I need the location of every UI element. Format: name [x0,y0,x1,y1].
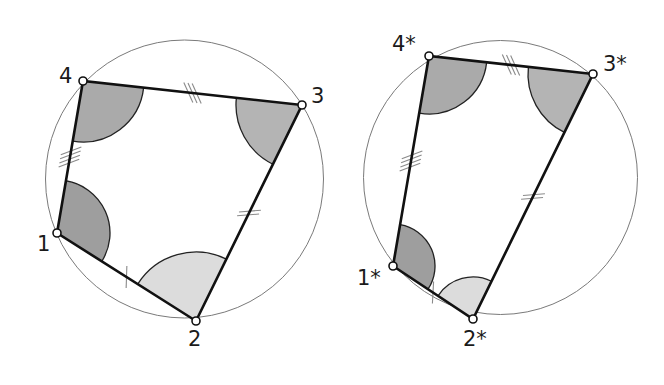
angle-sector-3 [528,67,593,132]
figure-original-quadrilateral [46,40,324,325]
vertex-point-3* [589,70,597,78]
vertex-label: 4* [392,34,416,55]
vertex-label: 4 [59,66,72,87]
angle-sector-4 [73,81,144,142]
vertex-label: 3* [603,54,627,75]
angle-sector-4 [419,56,486,114]
vertex-label: 1* [357,268,381,289]
cyclic-quadrilateral-diagram [0,0,664,385]
vertex-point-2* [469,315,477,323]
angle-sector-3 [236,98,302,164]
figure-transformed-quadrilateral [364,41,638,324]
vertex-point-4 [79,77,87,85]
vertex-label: 1 [37,234,50,255]
vertex-label: 3 [311,86,324,107]
vertex-point-1 [53,229,61,237]
vertex-label: 2 [188,329,201,350]
vertex-point-2 [192,317,200,325]
vertex-point-1* [389,262,397,270]
vertex-point-4* [425,52,433,60]
vertex-label: 2* [463,329,487,350]
vertex-point-3 [298,101,306,109]
